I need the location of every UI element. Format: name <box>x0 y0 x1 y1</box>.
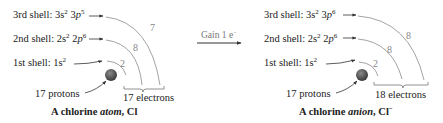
atom-title: A chlorine atom, Cl <box>51 106 137 117</box>
atom-shell2-label: 2nd shell: 2s2 2p6 <box>13 33 86 45</box>
anion-title: A chlorine anion, Cl− <box>299 106 393 117</box>
anion-shell2-count: 8 <box>387 44 392 55</box>
atom-protons-label: 17 protons <box>35 88 80 100</box>
anion-shell3-count: 8 <box>406 30 411 41</box>
atom-shell3-label: 3rd shell: 3s2 3p5 <box>13 9 84 21</box>
anion-diagram <box>326 15 428 93</box>
anion-shell1-count: 2 <box>373 58 378 69</box>
anion-shell3-label: 3rd shell: 3s2 3p6 <box>264 9 335 21</box>
atom-shell1-pointer <box>74 61 102 64</box>
anion-electrons-brace <box>374 82 428 88</box>
gain-electron-label: Gain 1 e− <box>201 29 237 40</box>
atom-shell1-label: 1st shell: 1s2 <box>13 57 66 69</box>
atom-shell1-count: 2 <box>120 58 125 69</box>
anion-shell1-pointer <box>326 60 355 64</box>
anion-electrons-label: 18 electrons <box>375 89 426 101</box>
anion-shell2-label: 2nd shell: 2s2 2p6 <box>264 33 337 45</box>
anion-protons-label: 17 protons <box>286 88 331 100</box>
atom-electrons-label: 17 electrons <box>123 92 174 104</box>
anion-shell1-label: 1st shell: 1s2 <box>264 57 317 69</box>
atom-protons-pointer <box>85 81 106 93</box>
anion-nucleus-icon <box>356 69 368 81</box>
atom-nucleus-icon <box>105 69 117 81</box>
atom-shell2-count: 8 <box>133 42 138 53</box>
atom-shell3-count: 7 <box>150 22 155 33</box>
anion-protons-pointer <box>336 81 357 93</box>
